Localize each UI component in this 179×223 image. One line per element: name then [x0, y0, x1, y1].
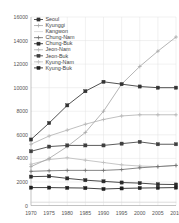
line-chart: 0200040006000800010000120001400016000197… — [0, 0, 179, 223]
legend-swatch-jeon-buk-marker — [37, 54, 40, 57]
series-chung-buk-marker — [48, 175, 51, 178]
series-jeon-buk-marker — [84, 144, 87, 147]
y-axis-tick-label: 10000 — [14, 85, 29, 91]
series-kyung-buk-marker — [66, 186, 69, 189]
y-axis-tick-label: 16000 — [14, 14, 29, 20]
series-jeon-buk-marker — [120, 142, 123, 145]
series-seoul-marker — [84, 90, 87, 93]
series-seoul-marker — [174, 86, 177, 89]
series-jeon-buk-marker — [156, 143, 159, 146]
y-axis-tick-label: 8000 — [16, 108, 28, 114]
legend-swatch-seoul-marker — [37, 18, 40, 21]
series-seoul-marker — [48, 121, 51, 124]
series-kyung-buk-marker — [120, 187, 123, 190]
x-axis-tick-label: 1970 — [25, 210, 37, 216]
y-axis-tick-label: 0 — [25, 203, 28, 209]
y-axis-tick-label: 12000 — [14, 61, 29, 67]
x-axis-tick-label: 2005 — [152, 210, 164, 216]
y-axis-tick-label: 4000 — [16, 155, 28, 161]
series-kyung-buk-marker — [48, 186, 51, 189]
series-kyung-buk-marker — [29, 186, 32, 189]
series-seoul-marker — [156, 86, 159, 89]
x-axis-tick-label: 1980 — [61, 210, 73, 216]
series-kyung-buk-marker — [174, 186, 177, 189]
y-axis-tick-label: 2000 — [16, 179, 28, 185]
x-axis-tick-label: 2000 — [134, 210, 146, 216]
y-axis-tick-label: 14000 — [14, 38, 29, 44]
x-axis-tick-label: 1990 — [98, 210, 110, 216]
chart-canvas: 0200040006000800010000120001400016000197… — [0, 0, 179, 223]
series-seoul-marker — [120, 83, 123, 86]
x-axis-tick-label: 1985 — [80, 210, 92, 216]
series-chung-buk-marker — [29, 175, 32, 178]
series-jeon-buk-marker — [66, 144, 69, 147]
x-axis-tick-label: 2010 — [170, 210, 179, 216]
series-jeon-buk-marker — [102, 144, 105, 147]
series-kyung-buk-marker — [138, 186, 141, 189]
legend-label-kyung-buk: Kyung-Buk — [46, 65, 73, 71]
series-chung-buk-marker — [138, 182, 141, 185]
series-seoul-marker — [66, 104, 69, 107]
series-jeon-buk-marker — [48, 145, 51, 148]
series-jeon-buk-marker — [174, 143, 177, 146]
series-seoul-marker — [102, 80, 105, 83]
series-chung-buk-marker — [102, 180, 105, 183]
x-axis-tick-label: 1995 — [116, 210, 128, 216]
y-axis-tick-label: 6000 — [16, 132, 28, 138]
series-jeon-buk-marker — [29, 150, 32, 153]
series-kyung-buk-marker — [156, 186, 159, 189]
series-chung-buk-marker — [120, 181, 123, 184]
legend-swatch-kyung-buk-marker — [37, 66, 40, 69]
x-axis-tick-label: 1975 — [43, 210, 55, 216]
series-kyung-buk-marker — [84, 186, 87, 189]
series-kyung-buk-marker — [102, 187, 105, 190]
series-seoul-marker — [138, 85, 141, 88]
series-chung-buk-marker — [174, 183, 177, 186]
series-chung-buk-marker — [156, 183, 159, 186]
series-chung-buk-marker — [84, 179, 87, 182]
legend-swatch-chung-buk-marker — [37, 42, 40, 45]
series-seoul-marker — [29, 138, 32, 141]
series-jeon-buk-marker — [138, 140, 141, 143]
series-chung-buk-marker — [66, 177, 69, 180]
